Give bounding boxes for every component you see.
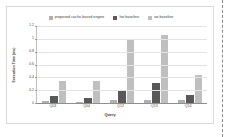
y-axis-title: Execution Time (ms)	[12, 47, 16, 82]
chart-plot-wrap: Execution Time (ms) 00.20.40.60.811.2	[13, 26, 209, 104]
y-axis-tick-mark	[35, 39, 37, 40]
x-axis-tick-label: Q04	[70, 105, 104, 113]
y-axis-tick-label: 0.4	[29, 76, 34, 80]
legend-item-hw-baseline[interactable]: hw baseline	[113, 16, 139, 20]
legend-label-proposed-cache-based-engine: proposed cache-based engine	[55, 16, 105, 20]
legend-label-sw-baseline: sw baseline	[154, 16, 173, 20]
y-axis-tick-mark	[35, 90, 37, 91]
bar[interactable]	[186, 95, 194, 103]
gridline	[37, 26, 207, 27]
x-axis-tick-labels: Q03Q04Q12Q13Q14	[36, 105, 205, 113]
legend-swatch-sw-baseline	[148, 16, 152, 20]
y-axis-tick-mark	[35, 26, 37, 27]
chart-figure-frame: proposed cache-based engine hw baseline …	[6, 6, 214, 124]
legend-label-hw-baseline: hw baseline	[119, 16, 139, 20]
bar[interactable]	[93, 81, 101, 103]
legend-item-sw-baseline[interactable]: sw baseline	[148, 16, 173, 20]
y-axis-tick-label: 0	[32, 102, 34, 106]
gridline	[37, 77, 207, 78]
page-right-margin-guide	[222, 0, 223, 137]
legend-swatch-hw-baseline	[113, 16, 117, 20]
y-axis-tick-mark	[35, 103, 37, 104]
bar[interactable]	[118, 90, 126, 103]
y-axis-tick-label: 0.2	[29, 89, 34, 93]
x-axis-tick-label: Q13	[137, 105, 171, 113]
figure-page: proposed cache-based engine hw baseline …	[0, 0, 231, 137]
x-axis-tick-label: Q14	[171, 105, 205, 113]
bar[interactable]	[127, 39, 135, 103]
bar[interactable]	[161, 35, 169, 103]
y-axis-tick-label: 1	[32, 37, 34, 41]
y-axis-tick-mark	[35, 77, 37, 78]
y-axis-tick-mark	[35, 52, 37, 53]
bar[interactable]	[50, 96, 58, 103]
y-axis-tick-label: 1.2	[29, 24, 34, 28]
legend-swatch-proposed-cache-based-engine	[49, 16, 53, 20]
bar[interactable]	[76, 102, 84, 103]
bar[interactable]	[59, 81, 67, 103]
bar[interactable]	[84, 98, 92, 103]
bar[interactable]	[178, 100, 186, 103]
bar[interactable]	[152, 83, 160, 103]
gridline	[37, 90, 207, 91]
plot-area	[36, 26, 207, 104]
legend-item-proposed-cache-based-engine[interactable]: proposed cache-based engine	[49, 16, 105, 20]
gridline	[37, 65, 207, 66]
bar[interactable]	[144, 100, 152, 103]
gridline	[37, 52, 207, 53]
x-axis-title: Query	[7, 113, 213, 117]
bar[interactable]	[42, 101, 50, 103]
y-axis-tick-mark	[35, 65, 37, 66]
y-axis-tick-labels: 00.20.40.60.811.2	[21, 26, 35, 104]
chart-legend: proposed cache-based engine hw baseline …	[21, 12, 201, 24]
y-axis-tick-label: 0.8	[29, 50, 34, 54]
gridline	[37, 39, 207, 40]
y-axis-tick-label: 0.6	[29, 63, 34, 67]
bar[interactable]	[110, 100, 118, 103]
x-axis-tick-label: Q03	[36, 105, 70, 113]
